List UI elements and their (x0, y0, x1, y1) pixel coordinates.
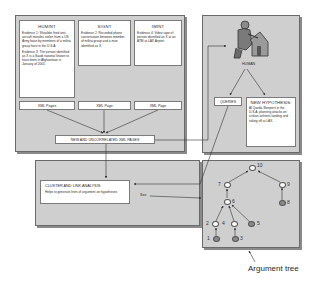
humint-xml-pages: XML Pages (19, 101, 75, 110)
tree-node-label-6: 6 (232, 198, 235, 204)
tree-node-2 (212, 221, 219, 227)
imint-title: IMINT (135, 24, 181, 29)
humint-title: HUMINT (20, 24, 74, 29)
analysis-text: Helps to generate lines of argument on h… (41, 190, 129, 194)
tree-node-label-1: 1 (207, 235, 210, 241)
human-analyst-with-house-icon (230, 18, 270, 60)
new-hypothesis-box: NEW HYPOTHESIS: Al Qaeda Sleepers in the… (246, 97, 296, 147)
analysis-title: CLUSTER AND LINK ANALYSIS: (41, 181, 129, 189)
hypothesis-title: NEW HYPOTHESIS: (247, 100, 295, 105)
humint-evidence-1: Evidence 1: Shoulder fired anti-aircraft… (20, 31, 74, 48)
cluster-link-analysis-box: CLUSTER AND LINK ANALYSIS: Helps to gene… (40, 180, 130, 204)
tree-node-label-7: 7 (218, 181, 221, 187)
see-label: See (140, 193, 146, 197)
argument-tree-caption: Argument tree (248, 264, 299, 273)
tree-node-7 (224, 182, 231, 188)
imint-evidence-4: Evidence 4: Video tape of person identif… (135, 31, 181, 44)
tree-node-5 (248, 221, 255, 227)
tree-node-1 (213, 236, 220, 242)
tree-node-4 (231, 221, 238, 227)
tree-node-6 (224, 199, 231, 205)
signt-title: SIGNT (79, 24, 130, 29)
tree-node-3 (232, 236, 239, 242)
tree-node-label-4: 4 (222, 220, 225, 226)
humint-evidence-3: Evidence 3: The person identified as X i… (20, 50, 74, 67)
tree-node-label-10: 10 (257, 162, 263, 168)
imint-xml-page: XML Page (134, 101, 182, 110)
signt-box: SIGNT Evidence 2: Recorded phone convers… (78, 20, 131, 66)
imint-box: IMINT Evidence 4: Video tape of person i… (134, 20, 182, 66)
tree-node-label-5: 5 (257, 220, 260, 226)
tree-node-label-9: 9 (287, 181, 290, 187)
hypothesis-text: Al Qaeda Sleepers in the U.S.A. planning… (247, 106, 295, 123)
signt-evidence-2: Evidence 2: Recorded phone conversation … (79, 31, 130, 48)
tree-node-label-3: 3 (240, 235, 243, 241)
humint-box: HUMINT Evidence 1: Shoulder fired anti-a… (19, 20, 75, 98)
tree-node-10 (249, 165, 256, 171)
human-label: HUMAN (242, 62, 255, 66)
tree-node-9 (279, 182, 286, 188)
tree-node-label-8: 8 (287, 199, 290, 205)
new-uncorrelated-xml-pages: NEW AND UNCORRELATED XML PAGES (55, 135, 155, 144)
queries-box: QUERIES (214, 97, 242, 106)
tree-node-8 (279, 200, 286, 206)
tree-node-label-2: 2 (206, 220, 209, 226)
signt-xml-page: XML Page (78, 101, 131, 110)
